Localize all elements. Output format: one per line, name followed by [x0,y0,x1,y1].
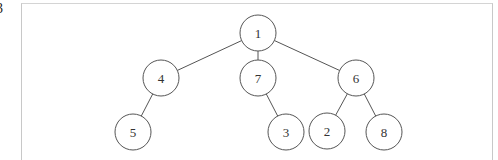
tree-diagram: 14765328 [0,0,498,160]
node-label: 1 [255,26,262,41]
nodes-group: 14765328 [115,15,402,150]
edge-n1-n6 [274,41,339,71]
edge-n6-n8 [364,94,375,116]
edge-n7-n3 [266,94,277,116]
node-label: 3 [283,125,290,140]
node-label: 2 [324,124,331,139]
node-label: 4 [158,71,165,86]
edge-n1-n4 [177,41,241,71]
tree-node-7: 7 [240,60,276,96]
tree-node-1: 1 [240,15,276,51]
edge-n6-n2 [336,94,348,115]
tree-node-5: 5 [115,114,151,150]
node-label: 7 [255,71,262,86]
edge-n4-n5 [141,94,152,116]
node-label: 6 [353,71,360,86]
tree-node-6: 6 [338,60,374,96]
tree-node-4: 4 [143,60,179,96]
tree-node-2: 2 [309,113,345,149]
tree-node-8: 8 [366,114,402,150]
tree-node-3: 3 [268,114,304,150]
node-label: 5 [130,125,137,140]
node-label: 8 [381,125,388,140]
